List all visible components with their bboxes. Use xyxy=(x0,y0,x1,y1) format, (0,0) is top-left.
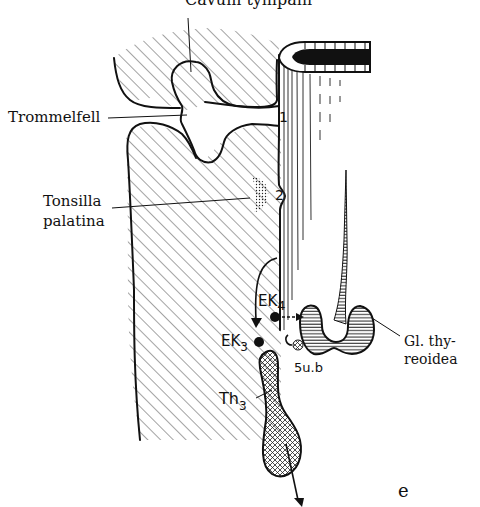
embryology-diagram: Cavum tympani Trommelfell Tonsilla palat… xyxy=(0,0,480,507)
label-gl-thy: Gl. thy- xyxy=(404,333,456,349)
ek4-dot xyxy=(270,312,280,322)
ek3-dot xyxy=(254,337,264,347)
thyroid-duct xyxy=(334,170,347,324)
label-pouch-1: 1 xyxy=(279,109,288,125)
pharynx-striations xyxy=(284,62,340,330)
label-trommelfell: Trommelfell xyxy=(8,108,101,126)
tube-cross-section xyxy=(279,42,370,72)
label-reoidea: reoidea xyxy=(404,351,457,367)
label-ub5: 5u.b xyxy=(294,360,323,375)
label-tonsilla: Tonsilla xyxy=(43,192,102,210)
panel-label: e xyxy=(398,480,409,501)
label-cavum-tympani: Cavum tympani xyxy=(185,0,312,9)
label-palatina: palatina xyxy=(43,212,105,230)
upper-hatched-tissue xyxy=(114,28,279,110)
ultimobranchial-body xyxy=(293,340,303,350)
